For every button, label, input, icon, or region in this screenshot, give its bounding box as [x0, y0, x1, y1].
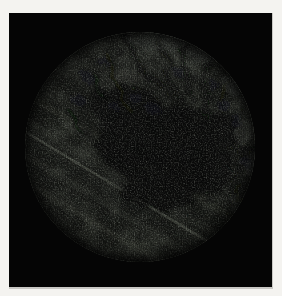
microscope-field-image [9, 13, 272, 287]
micrograph-photo [9, 13, 273, 289]
edge-vignette [25, 32, 255, 262]
page-background [0, 0, 282, 296]
